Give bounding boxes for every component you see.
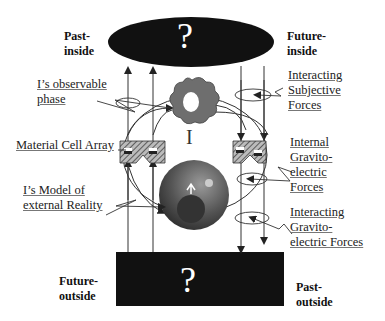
label-future-outside: Future- outside	[59, 274, 98, 304]
label-material-cell-array: Material Cell Array	[16, 138, 114, 153]
label-interacting-subjective-forces: Interacting Subjective Forces	[288, 68, 342, 113]
material-cell-array-right	[233, 141, 266, 163]
label-interacting-gravito-electric-forces: Interacting Gravito- electric Forces	[290, 205, 363, 250]
flower-icon	[170, 77, 220, 123]
label-future-inside: Future- inside	[287, 29, 326, 59]
label-past-outside: Past- outside	[296, 280, 333, 310]
label-internal-gravito-electric-forces: Internal Gravito- electric Forces	[290, 135, 332, 195]
label-model-of-reality: I’s Model of external Reality	[23, 183, 102, 213]
bottom-question-mark: ?	[180, 262, 196, 298]
earth-sphere-icon	[159, 160, 229, 230]
label-past-inside: Past- inside	[64, 29, 94, 59]
label-observable-phase: I’s observable phase	[37, 77, 107, 107]
top-question-mark: ?	[177, 18, 193, 54]
material-cell-array-left	[120, 141, 165, 163]
center-label-i: I	[186, 126, 193, 149]
outside-box	[116, 252, 284, 306]
